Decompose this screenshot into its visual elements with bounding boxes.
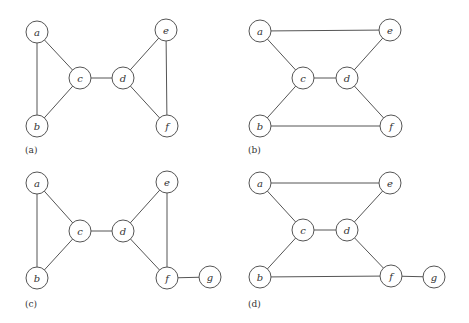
node-a: a [249, 20, 271, 42]
node-label: b [34, 121, 40, 132]
node-label: c [300, 73, 306, 84]
node-label: d [120, 226, 126, 237]
node-label: g [431, 272, 437, 283]
node-label: c [77, 226, 83, 237]
node-c: c [69, 67, 91, 89]
node-a: a [249, 172, 271, 194]
node-b: b [26, 267, 48, 289]
node-e: e [379, 19, 401, 41]
edge-b-f [260, 276, 391, 277]
node-d: d [112, 220, 134, 242]
node-c: c [292, 67, 314, 89]
node-label: d [120, 73, 126, 84]
node-b: b [249, 266, 271, 288]
node-g: g [423, 266, 445, 288]
node-label: e [387, 178, 393, 189]
node-label: a [257, 26, 263, 37]
graph-panel-a: abcdef(a) [25, 19, 178, 155]
panel-caption: (d) [248, 299, 261, 309]
node-a: a [26, 172, 48, 194]
node-label: g [207, 272, 213, 283]
edge-a-e [260, 30, 390, 31]
node-a: a [26, 21, 48, 43]
node-label: c [77, 73, 83, 84]
node-label: e [387, 25, 393, 36]
node-e: e [379, 172, 401, 194]
node-d: d [336, 219, 358, 241]
node-label: a [257, 178, 263, 189]
node-f: f [156, 115, 178, 137]
graph-figure: abcdef(a)abcdef(b)abcdefg(c)abcdefg(d) [0, 0, 469, 323]
node-label: e [164, 177, 170, 188]
node-label: d [344, 73, 350, 84]
node-label: c [300, 225, 306, 236]
node-d: d [112, 67, 134, 89]
node-g: g [199, 266, 221, 288]
node-e: e [156, 171, 178, 193]
graph-panel-d: abcdefg(d) [248, 172, 445, 309]
panel-caption: (a) [25, 145, 37, 155]
node-label: b [257, 121, 263, 132]
node-label: e [163, 25, 169, 36]
node-label: a [34, 178, 40, 189]
graph-panel-b: abcdef(b) [248, 19, 402, 155]
panel-caption: (c) [25, 299, 37, 309]
graph-panel-c: abcdefg(c) [25, 171, 221, 309]
node-label: b [257, 272, 263, 283]
node-f: f [156, 267, 178, 289]
node-label: d [344, 225, 350, 236]
edge-e-f [166, 30, 167, 126]
node-b: b [26, 115, 48, 137]
panel-caption: (b) [248, 145, 261, 155]
node-e: e [155, 19, 177, 41]
node-label: b [34, 273, 40, 284]
node-f: f [380, 265, 402, 287]
node-c: c [69, 220, 91, 242]
node-label: a [34, 27, 40, 38]
node-f: f [380, 115, 402, 137]
node-b: b [249, 115, 271, 137]
node-d: d [336, 67, 358, 89]
node-c: c [292, 219, 314, 241]
